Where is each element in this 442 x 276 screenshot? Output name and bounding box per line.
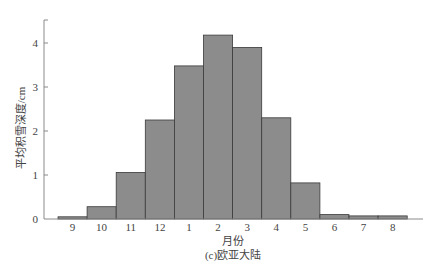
y-tick-label: 4 bbox=[33, 37, 39, 49]
bar-month-6 bbox=[320, 215, 349, 219]
x-tick-label: 6 bbox=[332, 221, 338, 233]
chart-caption: (c)欧亚大陆 bbox=[205, 246, 261, 262]
y-tick-label: 1 bbox=[33, 169, 39, 181]
bars-group bbox=[58, 35, 407, 219]
bar-month-10 bbox=[87, 207, 116, 219]
x-tick-label: 11 bbox=[126, 221, 137, 233]
bar-month-11 bbox=[116, 172, 145, 219]
x-tick-label: 7 bbox=[361, 221, 367, 233]
x-tick-label: 1 bbox=[186, 221, 192, 233]
bar-month-12 bbox=[145, 120, 174, 219]
bar-month-5 bbox=[291, 183, 320, 219]
bar-month-1 bbox=[174, 66, 203, 219]
y-tick-label: 0 bbox=[33, 213, 39, 225]
x-tick-label: 3 bbox=[244, 221, 250, 233]
x-tick-label: 9 bbox=[70, 221, 76, 233]
y-tick-label: 3 bbox=[33, 81, 39, 93]
x-tick-label: 5 bbox=[303, 221, 309, 233]
x-tick-label: 8 bbox=[390, 221, 396, 233]
bar-month-2 bbox=[204, 35, 233, 219]
y-tick-label: 2 bbox=[33, 125, 39, 137]
x-tick-label: 12 bbox=[154, 221, 165, 233]
x-tick-label: 4 bbox=[274, 221, 280, 233]
x-tick-label: 2 bbox=[215, 221, 221, 233]
y-ticks: 01234 bbox=[33, 37, 49, 225]
bar-month-4 bbox=[262, 118, 291, 219]
bar-month-3 bbox=[233, 47, 262, 219]
y-axis-label: 平均积雪深度/cm bbox=[12, 87, 28, 170]
bar-chart: 01234 910111212345678 bbox=[0, 0, 442, 276]
x-tick-label: 10 bbox=[96, 221, 108, 233]
